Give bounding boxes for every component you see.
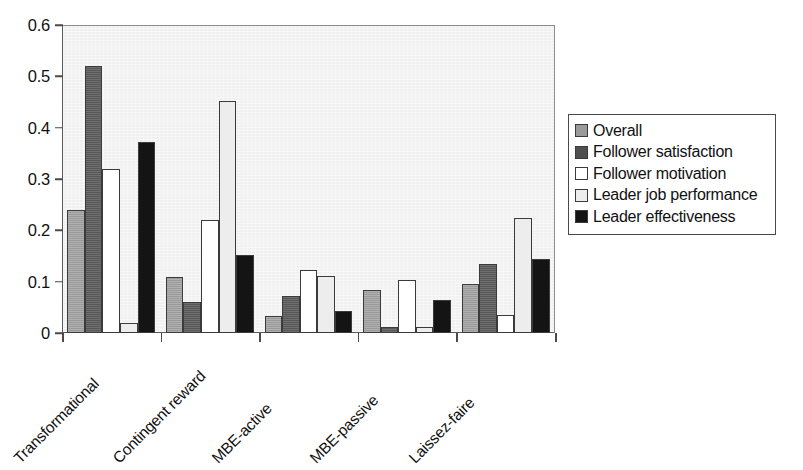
bar-group: [265, 25, 353, 333]
legend-label: Follower satisfaction: [593, 144, 733, 160]
bar-chart: 00.10.20.30.40.50.6 TransformationalCont…: [0, 0, 803, 470]
bar: [120, 323, 138, 333]
bar: [497, 315, 515, 333]
bar: [138, 142, 156, 333]
x-tick-mark: [161, 333, 163, 342]
y-tick-label: 0.2: [28, 222, 50, 239]
bar: [317, 276, 335, 333]
bar: [201, 220, 219, 333]
legend-item: Overall: [575, 120, 769, 142]
legend-label: Follower motivation: [593, 166, 726, 182]
bar-group: [67, 25, 155, 333]
y-tick-label: 0.1: [28, 273, 50, 290]
x-tick-mark: [555, 333, 557, 342]
y-tick-label: 0: [41, 325, 50, 342]
bar: [183, 302, 201, 333]
y-tick-label: 0.6: [28, 17, 50, 34]
x-tick-label: Contingent reward: [110, 368, 208, 466]
bar: [265, 316, 283, 333]
x-tick-mark: [62, 333, 64, 342]
x-tick-label: MBE-passive: [307, 392, 381, 466]
bar: [363, 290, 381, 333]
bar: [166, 277, 184, 333]
x-tick-label: Laissez-faire: [406, 395, 477, 466]
legend-swatch-icon: [575, 146, 588, 159]
legend-swatch-icon: [575, 189, 588, 202]
legend-swatch-icon: [575, 210, 588, 223]
legend-label: Leader job performance: [593, 187, 757, 203]
x-tick-mark: [358, 333, 360, 342]
bar: [381, 327, 399, 333]
bar: [514, 218, 532, 333]
legend: Overall Follower satisfaction Follower m…: [568, 114, 776, 235]
legend-swatch-icon: [575, 167, 588, 180]
bar: [282, 296, 300, 333]
y-tick-label: 0.5: [28, 68, 50, 85]
bar: [462, 284, 480, 333]
bar: [433, 300, 451, 333]
bar: [85, 66, 103, 333]
legend-item: Follower motivation: [575, 163, 769, 185]
bar: [219, 101, 237, 333]
bar: [335, 311, 353, 333]
legend-label: Leader effectiveness: [593, 209, 735, 225]
bar: [67, 210, 85, 333]
bar: [416, 327, 434, 333]
bar: [236, 255, 254, 333]
x-tick-label: Transformational: [11, 375, 102, 466]
bar: [102, 169, 120, 333]
bar: [300, 270, 318, 333]
y-axis: 00.10.20.30.40.50.6: [0, 25, 62, 335]
legend-item: Leader effectiveness: [575, 206, 769, 228]
bar: [479, 264, 497, 333]
bar-group: [363, 25, 451, 333]
legend-label: Overall: [593, 123, 642, 139]
legend-item: Follower satisfaction: [575, 142, 769, 164]
bar: [532, 259, 550, 333]
legend-item: Leader job performance: [575, 185, 769, 207]
x-tick-label: MBE-active: [209, 400, 275, 466]
y-tick-label: 0.4: [28, 119, 50, 136]
x-tick-mark: [456, 333, 458, 342]
bars-layer: [62, 25, 555, 333]
legend-swatch-icon: [575, 124, 588, 137]
y-tick-label: 0.3: [28, 171, 50, 188]
x-tick-mark: [259, 333, 261, 342]
bar-group: [462, 25, 550, 333]
bar: [398, 280, 416, 333]
bar-group: [166, 25, 254, 333]
